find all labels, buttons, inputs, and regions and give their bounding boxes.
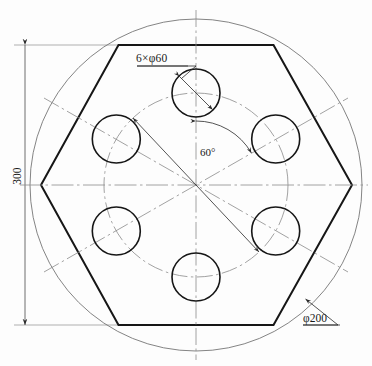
label-hole-count-diameter: 6×φ60 bbox=[136, 52, 167, 64]
leader-holes-label bbox=[137, 66, 196, 79]
label-overall-height: 300 bbox=[11, 167, 23, 184]
label-angle: 60° bbox=[200, 146, 215, 158]
leader-bolt-circle-lower bbox=[196, 185, 259, 252]
leader-bolt-circle-upper bbox=[133, 118, 196, 185]
label-outer-diameter: φ200 bbox=[303, 312, 327, 324]
label-underlines bbox=[137, 66, 340, 325]
drawing-canvas: 6×φ60 φ200 60° 300 bbox=[0, 0, 372, 366]
